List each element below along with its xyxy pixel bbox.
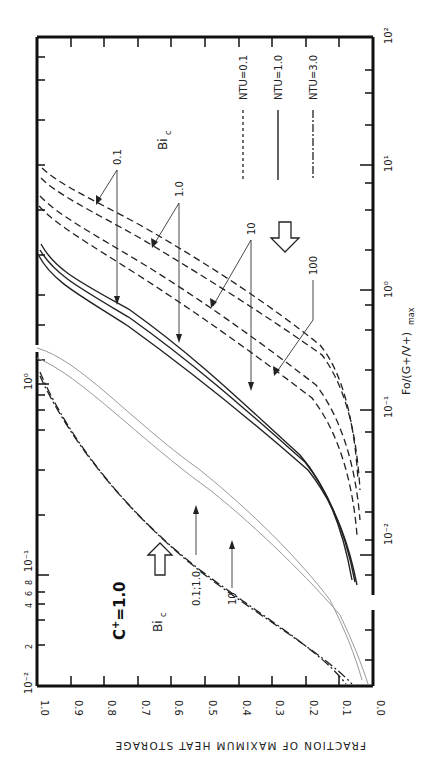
svg-text:C+=1.0: C+=1.0 — [110, 581, 129, 640]
svg-text:10⁻¹: 10⁻¹ — [23, 550, 34, 572]
svg-text:10⁻²: 10⁻² — [383, 523, 394, 545]
y-axis-title: FRACTION OF MAXIMUM HEAT STORAGE — [114, 740, 366, 752]
svg-text:0.8: 0.8 — [106, 700, 117, 716]
svg-text:10⁰: 10⁰ — [23, 373, 34, 390]
svg-text:1.0: 1.0 — [39, 700, 50, 716]
chart-title: C+=1.0 — [110, 581, 129, 640]
svg-text:10²: 10² — [383, 27, 394, 44]
svg-text:Bi: Bi — [156, 138, 170, 150]
left-bic-label: Bi c — [151, 613, 168, 632]
left-panel-curves — [37, 348, 368, 684]
right-panel-solid-curves — [39, 244, 357, 585]
svg-text:0.7: 0.7 — [140, 700, 151, 716]
plot-frame — [37, 37, 373, 686]
left-panel-axis-labels: 10⁻² 2 4 6 8 10⁻¹ 10⁰ — [23, 373, 34, 694]
legend: NTU=0.1 NTU=1.0 NTU=3.0 — [238, 55, 319, 180]
svg-text:10¹: 10¹ — [383, 155, 394, 172]
legend-ntu-0.1: NTU=0.1 — [238, 55, 249, 100]
right-panel-axis-labels: 10⁻² 10⁻¹ 10⁰ 10¹ 10² — [383, 27, 394, 545]
svg-text:0.9: 0.9 — [73, 700, 84, 716]
svg-text:Bi: Bi — [151, 620, 165, 632]
svg-text:c: c — [164, 131, 173, 135]
svg-text:0.4: 0.4 — [241, 700, 252, 716]
svg-text:0.2: 0.2 — [308, 700, 319, 716]
right-bic-label: Bi c — [156, 131, 173, 150]
right-hollow-arrow — [271, 222, 299, 252]
right-curve-label-1.0: 1.0 — [174, 181, 185, 197]
right-curve-label-100: 100 — [308, 256, 319, 275]
svg-text:6: 6 — [25, 591, 34, 596]
right-panel-log-ticks — [360, 70, 373, 660]
svg-text:0.5: 0.5 — [207, 700, 218, 716]
svg-text:2: 2 — [25, 644, 34, 649]
left-panel-log-ticks — [37, 57, 49, 645]
left-curve-label-10: 10 — [227, 592, 238, 605]
legend-ntu-3.0: NTU=3.0 — [308, 55, 319, 100]
legend-ntu-1.0: NTU=1.0 — [273, 55, 284, 100]
svg-text:c: c — [159, 613, 168, 617]
svg-text:Fo/(G+/V+): Fo/(G+/V+) — [400, 332, 413, 395]
left-curve-label-0.1-1.0: 0.1;1.0 — [191, 571, 202, 606]
svg-text:0.0: 0.0 — [375, 700, 386, 716]
right-panel-dashed-curves — [39, 168, 360, 535]
svg-text:10⁻²: 10⁻² — [23, 672, 34, 694]
right-curve-label-0.1: 0.1 — [112, 149, 123, 165]
svg-text:0.6: 0.6 — [173, 700, 184, 716]
svg-text:4: 4 — [25, 603, 34, 608]
x-axis-title: Fo/(G+/V+) max — [400, 307, 416, 395]
right-curve-label-10: 10 — [246, 222, 257, 235]
fraction-tick-labels: 1.0 0.9 0.8 0.7 0.6 0.5 0.4 0.3 0.2 0.1 … — [39, 700, 386, 716]
svg-text:8: 8 — [25, 580, 34, 585]
left-hollow-arrow — [148, 543, 172, 575]
svg-text:max: max — [407, 307, 416, 325]
svg-text:0.1: 0.1 — [341, 700, 352, 716]
chart-canvas: 1.0 0.9 0.8 0.7 0.6 0.5 0.4 0.3 0.2 0.1 … — [0, 0, 427, 759]
svg-text:10⁰: 10⁰ — [383, 281, 394, 298]
svg-text:0.3: 0.3 — [274, 700, 285, 716]
svg-text:10⁻¹: 10⁻¹ — [383, 396, 394, 418]
